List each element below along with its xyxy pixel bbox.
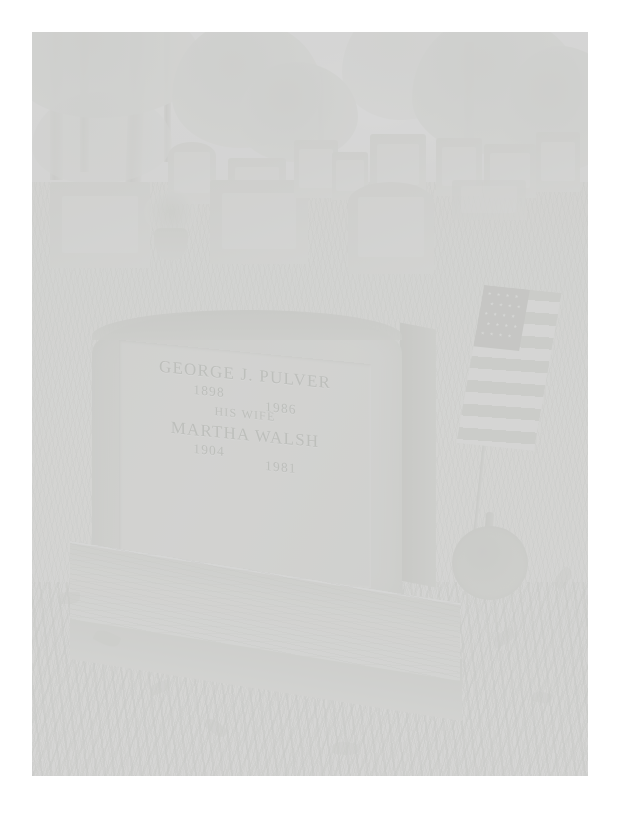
flag-star [480, 331, 485, 335]
flag-star [493, 312, 498, 316]
flag-star [489, 332, 494, 336]
headstone-top-edge [92, 310, 402, 340]
flag-star [502, 313, 507, 317]
flag-star [516, 305, 521, 309]
inscription-death-primary: 1986 [265, 400, 297, 417]
background-headstone-1 [50, 182, 150, 268]
photo-page: GEORGE J. PULVER 1898 1986 HIS WIFE MART… [0, 0, 620, 815]
flag-star [513, 324, 518, 328]
flag-star [496, 292, 501, 296]
background-headstone-8 [348, 182, 434, 274]
flag-star [487, 291, 492, 295]
headstone-side-face [400, 323, 436, 588]
flag-star [495, 322, 500, 326]
inscription-text-block: GEORGE J. PULVER 1898 1986 HIS WIFE MART… [119, 354, 371, 475]
flag-star [490, 302, 495, 306]
flag-star [514, 294, 519, 298]
inscription-panel: GEORGE J. PULVER 1898 1986 HIS WIFE MART… [119, 340, 371, 588]
flag-star [484, 311, 489, 315]
inscription-death-secondary: 1981 [265, 459, 297, 476]
flag-star [511, 314, 516, 318]
inscription-birth-secondary: 1904 [193, 442, 225, 459]
cemetery-photograph: GEORGE J. PULVER 1898 1986 HIS WIFE MART… [32, 32, 588, 776]
flag-star [499, 303, 504, 307]
american-flag [456, 285, 561, 451]
flag-star [508, 304, 513, 308]
flag-star [507, 334, 512, 338]
inscription-birth-primary: 1898 [193, 383, 225, 400]
leaf [58, 592, 80, 604]
flag-star [486, 321, 491, 325]
flag-star [504, 323, 509, 327]
flag-star [505, 293, 510, 297]
background-headstone-12 [452, 180, 526, 220]
veteran-grave-marker-disc [452, 526, 528, 600]
american-flag-group [450, 280, 570, 600]
background-headstone-11 [536, 132, 580, 192]
flag-star [498, 333, 503, 337]
